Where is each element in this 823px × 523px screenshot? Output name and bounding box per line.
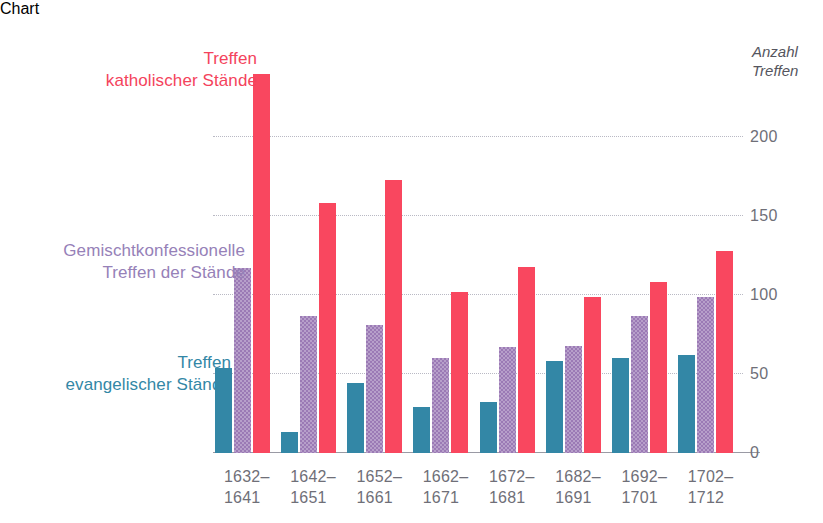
x-axis-labels: 1632–16411642–16511652–16611662–16711672… xyxy=(213,466,743,523)
bar-red xyxy=(385,180,402,453)
legend-gemischt-line2: Treffen der Stände xyxy=(63,262,245,284)
bar-purple xyxy=(697,297,714,453)
y-tick-label: 50 xyxy=(750,365,768,383)
bar-chart: Anzahl Treffen 200150100500 1632–1641164… xyxy=(0,18,823,523)
y-tick-label: 150 xyxy=(750,207,778,225)
x-tick-label-line2: 1712 xyxy=(688,487,734,508)
y-axis-title: Anzahl Treffen xyxy=(752,42,798,80)
x-tick-label-line2: 1641 xyxy=(224,487,270,508)
bar-red xyxy=(716,251,733,453)
x-tick-label-line2: 1671 xyxy=(423,487,469,508)
bar-group xyxy=(611,58,677,453)
bar-group xyxy=(478,58,544,453)
y-axis-title-line1: Anzahl xyxy=(752,42,798,61)
x-tick-label-line2: 1681 xyxy=(489,487,535,508)
x-tick-label-line1: 1662– xyxy=(423,466,469,487)
bars-layer xyxy=(213,58,743,453)
bar-teal xyxy=(480,402,497,453)
legend-evangelisch-line2: evangelischer Stände xyxy=(65,374,231,396)
x-tick-label: 1662–1671 xyxy=(423,466,469,508)
x-tick-label: 1632–1641 xyxy=(224,466,270,508)
x-tick-label-line1: 1702– xyxy=(688,466,734,487)
bar-group xyxy=(412,58,478,453)
legend-item-evangelische-staende: Treffen evangelischer Stände xyxy=(65,352,231,396)
bar-purple xyxy=(234,268,251,453)
bar-purple xyxy=(565,346,582,453)
bar-purple xyxy=(432,358,449,453)
bar-group xyxy=(346,58,412,453)
x-tick-label: 1682–1691 xyxy=(555,466,601,508)
y-axis-title-line2: Treffen xyxy=(752,61,798,80)
legend-evangelisch-line1: Treffen xyxy=(65,352,231,374)
legend-katholisch-line2: katholischer Stände xyxy=(106,70,257,92)
bar-teal xyxy=(678,355,695,453)
legend-item-gemischtkonfessionelle-treffen: Gemischtkonfessionelle Treffen der Ständ… xyxy=(63,240,245,284)
x-tick-label-line2: 1701 xyxy=(622,487,668,508)
legend-item-katholische-staende: Treffen katholischer Stände xyxy=(106,48,257,92)
bar-group xyxy=(279,58,345,453)
bar-red xyxy=(319,203,336,453)
y-tick-label: 100 xyxy=(750,286,778,304)
bar-red xyxy=(650,282,667,453)
bar-red xyxy=(518,267,535,453)
x-tick-label-line1: 1652– xyxy=(357,466,403,487)
x-tick-label: 1652–1661 xyxy=(357,466,403,508)
bar-red xyxy=(253,74,270,453)
x-tick-label: 1692–1701 xyxy=(622,466,668,508)
bar-red xyxy=(451,292,468,453)
x-tick-label: 1702–1712 xyxy=(688,466,734,508)
x-tick-label: 1642–1651 xyxy=(290,466,336,508)
x-tick-label-line2: 1661 xyxy=(357,487,403,508)
bar-teal xyxy=(413,407,430,453)
x-tick-label-line2: 1651 xyxy=(290,487,336,508)
x-tick-label-line1: 1632– xyxy=(224,466,270,487)
legend-gemischt-line1: Gemischtkonfessionelle xyxy=(63,240,245,262)
x-tick-label-line1: 1672– xyxy=(489,466,535,487)
bar-teal xyxy=(347,383,364,453)
bar-purple xyxy=(300,316,317,453)
x-tick-label-line1: 1692– xyxy=(622,466,668,487)
x-tick-label-line1: 1642– xyxy=(290,466,336,487)
legend-katholisch-line1: Treffen xyxy=(106,48,257,70)
bar-group xyxy=(544,58,610,453)
bar-group xyxy=(677,58,743,453)
y-tick-label: 200 xyxy=(750,128,778,146)
x-tick-label-line2: 1691 xyxy=(555,487,601,508)
bar-purple xyxy=(499,347,516,453)
x-tick-label: 1672–1681 xyxy=(489,466,535,508)
bar-purple xyxy=(631,316,648,453)
bar-teal xyxy=(612,358,629,453)
bar-teal xyxy=(281,432,298,453)
x-tick-label-line1: 1682– xyxy=(555,466,601,487)
bar-teal xyxy=(546,361,563,453)
y-tick-label: 0 xyxy=(750,444,759,462)
bar-purple xyxy=(366,325,383,453)
bar-red xyxy=(584,297,601,453)
